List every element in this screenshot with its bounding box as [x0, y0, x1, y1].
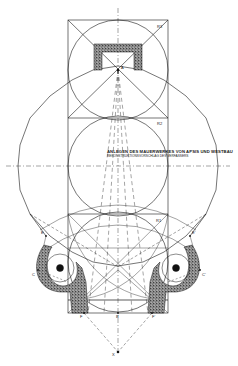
label-f: F [80, 314, 83, 319]
label-r1: R1 [156, 218, 162, 223]
label-c: C [32, 272, 35, 277]
apse-walls-left [37, 245, 88, 313]
label-r3: R3 [157, 24, 163, 29]
label-e: E [41, 230, 44, 235]
point-apex [117, 351, 120, 354]
label-c-prime: C' [202, 272, 206, 277]
label-e-prime: E' [192, 230, 196, 235]
label-b: B [116, 314, 119, 319]
drawing-caption: ANLEGEN DES MAUERWERKES VON APSIS UND WE… [107, 149, 233, 158]
apse-walls-right [148, 245, 199, 313]
label-r2: R2 [157, 121, 163, 126]
caption-subtitle: REKONSTRUKTIONSVORSCHLAG DES VERFASSERS [107, 154, 233, 158]
label-f-prime: F' [152, 314, 155, 319]
label-a: A [121, 65, 124, 70]
label-x: X [112, 352, 115, 357]
point-a [117, 69, 120, 72]
architectural-construction-drawing: R3 R2 R1 A E E' C C' F F' B X [0, 0, 238, 366]
